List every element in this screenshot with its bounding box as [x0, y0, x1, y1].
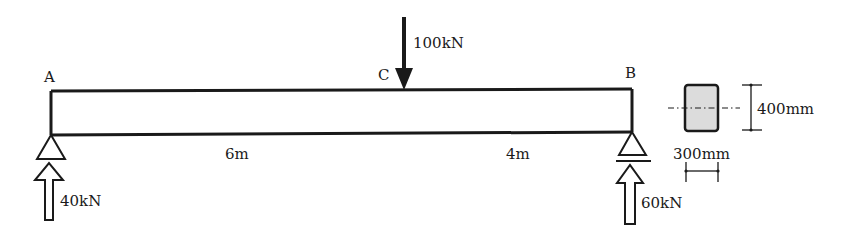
reaction-arrow-a-icon	[35, 163, 63, 220]
beam-diagram: A C B 100kN 40kN 60kN 6m 4m 400mm 300mm	[0, 0, 849, 246]
support-b-roller-icon	[616, 132, 651, 161]
reaction-label-a: 40kN	[60, 192, 101, 210]
point-label-b: B	[625, 64, 636, 82]
point-label-a: A	[43, 68, 55, 86]
reaction-label-b: 60kN	[641, 194, 682, 212]
point-load-label: 100kN	[413, 34, 464, 52]
point-label-c: C	[378, 66, 389, 84]
point-load-arrow	[395, 17, 413, 90]
span-label-ac: 6m	[225, 145, 249, 163]
section-width-label: 300mm	[673, 145, 730, 163]
section-height-label: 400mm	[757, 100, 814, 118]
reaction-arrow-b-icon	[617, 165, 643, 224]
span-label-cb: 4m	[506, 145, 530, 163]
width-dimension	[684, 162, 719, 182]
cross-section	[668, 85, 740, 131]
beam	[51, 89, 632, 135]
support-a-pin-icon	[37, 135, 65, 159]
